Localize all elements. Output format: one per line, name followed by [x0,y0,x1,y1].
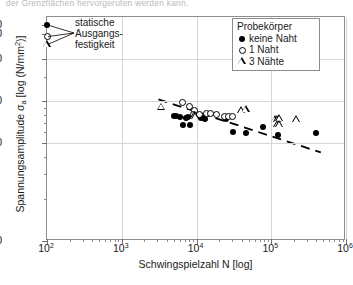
y-axis-tick-label: 50 [0,137,2,147]
x-axis-minor-tick [144,239,145,242]
x-tick-mantissa: 10 [337,242,349,254]
data-point-filled-circle [313,130,319,136]
x-axis-minor-tick [157,239,158,242]
data-point-open-circle [213,111,220,118]
x-axis-minor-tick [255,239,256,242]
data-point-filled-circle [260,124,266,130]
data-point-open-circle [44,33,51,40]
y-axis-title-tail: )] [14,35,26,41]
y-axis-tick-label: 100 [0,95,2,105]
y-gridline [47,101,344,102]
annotation-static-strength: statische Ausgangs- festigkeit [75,17,123,51]
legend-title: Probekörper [237,21,316,33]
x-axis-title: Schwingspielzahl N [log] [46,258,345,270]
x-axis-minor-tick [70,239,71,242]
figure-scatter-plot: der Grenzflächen hervorgerufen werden ka… [0,0,353,285]
data-point-open-circle [229,113,236,120]
x-axis-minor-tick [232,239,233,242]
x-axis-minor-tick [307,239,308,242]
y-axis-minor-tick [44,199,47,200]
x-gridline [197,17,198,239]
x-axis-tick-label: 104 [188,243,204,254]
legend-item-1-naht: 1 Naht [237,44,316,56]
x-axis-minor-tick [110,239,111,242]
open-circle-icon [237,44,249,56]
data-point-open-triangle [157,103,165,110]
y-axis-minor-tick [44,123,47,124]
data-point-filled-circle [44,22,50,28]
y-axis-tick [42,59,47,60]
y-axis-minor-tick [44,132,47,133]
y-axis-tick-label: 200 [0,53,2,63]
x-axis-minor-tick [219,239,220,242]
x-axis-minor-tick [294,239,295,242]
y-axis-title: Spannungsamplitude σa [log (N/mm2)] [14,9,26,239]
y-axis-tick-label: 10 [0,235,2,245]
legend-label-3-naehte: 3 Nähte [249,56,284,67]
x-axis-tick-label: 105 [262,243,278,254]
x-axis-minor-tick [185,239,186,242]
x-axis-minor-tick [260,239,261,242]
data-point-filled-circle [180,122,186,128]
y-axis-tick [42,143,47,144]
x-tick-exponent: 3 [125,242,129,249]
x-axis-minor-tick [334,239,335,242]
y-axis-title-main: Spannungsamplitude σ [14,104,26,212]
y-axis-minor-tick [44,77,47,78]
x-axis-minor-tick [180,239,181,242]
data-point-open-triangle [275,120,283,127]
x-axis-minor-tick [167,239,168,242]
x-axis-tick-label: 103 [113,243,129,254]
data-point-filled-circle [187,122,193,128]
data-point-open-triangle [191,112,199,119]
annotation-line-3: festigkeit [75,39,123,50]
y-axis-minor-tick [44,108,47,109]
x-tick-mantissa: 10 [262,242,274,254]
x-tick-exponent: 4 [199,242,203,249]
x-tick-exponent: 6 [349,242,353,249]
y-axis-tick [42,101,47,102]
x-axis-minor-tick [174,239,175,242]
data-point-open-triangle [292,115,300,122]
x-tick-exponent: 5 [274,242,278,249]
x-axis-minor-tick [316,239,317,242]
data-point-filled-circle [243,130,249,136]
legend-item-3-naehte: 3 Nähte [237,56,316,68]
y-axis-tick-label: 300 [0,28,2,38]
annotation-line-1: statische [75,17,123,28]
data-point-filled-circle [275,132,281,138]
data-point-filled-circle [230,129,236,135]
data-point-open-triangle [242,105,250,112]
y-gridline [47,143,344,144]
legend: Probekörper keine Naht 1 Naht 3 Nähte [232,18,320,71]
y-axis-minor-tick [44,115,47,116]
x-axis-tick-label: 102 [38,243,54,254]
filled-circle-icon [237,33,249,45]
x-axis-tick-label: 106 [337,243,353,254]
top-caption-text: der Grenzflächen hervorgerufen werden ka… [6,0,306,8]
x-tick-mantissa: 10 [188,242,200,254]
x-axis-minor-tick [323,239,324,242]
y-axis-title-sub: a [19,100,28,104]
legend-label-1-naht: 1 Naht [249,44,278,55]
x-axis-minor-tick [83,239,84,242]
x-tick-mantissa: 10 [113,242,125,254]
data-point-open-triangle [43,40,51,47]
x-axis-minor-tick [242,239,243,242]
legend-item-keine-naht: keine Naht [237,33,316,45]
open-triangle-icon [237,56,249,68]
y-axis-minor-tick [44,157,47,158]
x-axis-minor-tick [92,239,93,242]
data-point-open-circle [179,99,186,106]
x-axis-minor-tick [329,239,330,242]
x-tick-mantissa: 10 [38,242,50,254]
y-axis-minor-tick [44,174,47,175]
y-axis-title-sup: 2 [13,42,22,46]
x-axis-minor-tick [99,239,100,242]
legend-label-keine-naht: keine Naht [249,33,297,44]
annotation-line-2: Ausgangs- [75,28,123,39]
x-axis-minor-tick [105,239,106,242]
x-axis-minor-tick [249,239,250,242]
x-tick-exponent: 2 [50,242,54,249]
x-gridline [346,17,347,239]
